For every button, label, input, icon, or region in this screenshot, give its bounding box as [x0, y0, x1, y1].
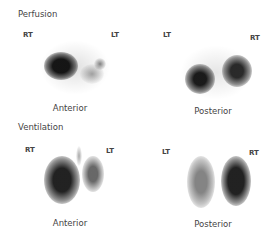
side-label: RT — [23, 31, 33, 39]
view-caption: Anterior — [30, 218, 110, 228]
view-caption: Posterior — [173, 106, 253, 116]
side-label: LT — [106, 147, 114, 155]
perfusion-label: Perfusion — [18, 9, 57, 19]
side-label: LT — [163, 31, 171, 39]
view-caption: Posterior — [173, 219, 253, 229]
side-label: RT — [25, 146, 35, 154]
side-label: LT — [111, 31, 119, 39]
side-label: RT — [250, 34, 260, 42]
view-caption: Anterior — [30, 103, 110, 113]
side-label: LT — [162, 148, 170, 156]
side-label: RT — [249, 149, 259, 157]
ventilation-label: Ventilation — [18, 122, 63, 132]
